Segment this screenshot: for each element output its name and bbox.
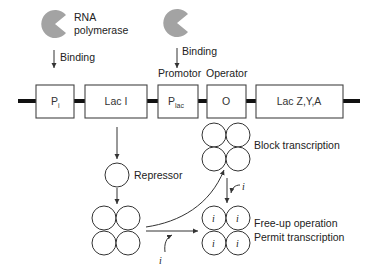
binding-label-2: Binding [182,45,217,57]
rna-polymerase-icon [163,9,188,37]
rna-polymerase-1: RNA polymerase Binding [41,10,128,68]
rna-polymerase-label-line1: RNA [74,11,96,23]
gene-plac: Plac [158,85,198,118]
free-up-label: Free-up operation [254,217,338,229]
gene-label: Lac I [105,95,128,107]
lac-operon-diagram: RNA polymerase Binding Binding Promotor … [0,0,377,269]
binding-label-1: Binding [60,51,95,63]
operator-bound-tetramer [202,123,250,171]
repressor-tetramer [92,206,140,255]
gene-laczya: Lac Z,Y,A [256,85,343,118]
inducer-symbol: i [236,238,239,249]
block-transcription-label: Block transcription [254,139,340,151]
inducer-curve-arrow-2 [231,185,240,193]
gene-label: Lac Z,Y,A [277,95,322,107]
inducer-symbol: i [212,213,215,224]
inducer-bound-tetramer: i i i i [202,206,250,255]
gene-pi: Pi [36,85,74,118]
operator-label: Operator [206,67,248,79]
promotor-label: Promotor [158,67,202,79]
repressor-label: Repressor [134,169,183,181]
rna-polymerase-label-line2: polymerase [74,24,128,36]
gene-laci: Lac I [85,85,147,118]
gene-label: O [222,95,230,107]
gene-operator: O [207,85,246,118]
repressor-monomer [105,163,129,187]
inducer-symbol: i [212,238,215,249]
rna-polymerase-2: Binding [163,9,217,68]
inducer-curve-arrow [165,235,172,252]
inducer-symbol: i [159,255,162,266]
rna-polymerase-icon [41,10,66,38]
inducer-symbol-2: i [242,181,245,192]
permit-transcription-label: Permit transcription [254,231,345,243]
inducer-symbol: i [236,213,239,224]
